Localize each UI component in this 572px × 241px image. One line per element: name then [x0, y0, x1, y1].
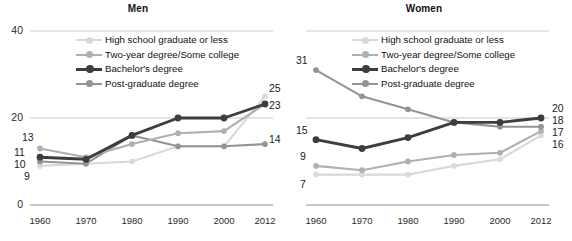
legend-men: High school graduate or less Two-year de… [76, 33, 239, 91]
legend-label-post-graduate: Post-graduate degree [105, 79, 199, 89]
series-two-year-men [37, 101, 268, 160]
ytick-men-40: 40 [1, 24, 23, 36]
xtick-men-1970: 1970 [69, 215, 103, 226]
endlabel-men-23: 23 [269, 99, 281, 111]
xtick-women-1960: 1960 [299, 215, 333, 226]
legend-swatch-bachelors-icon [352, 64, 378, 74]
startlabel-women-31: 31 [296, 54, 308, 66]
legend-label-two-year: Two-year degree/Some college [381, 50, 515, 60]
legend-swatch-bachelors-icon [76, 64, 102, 74]
legend-item-post-graduate: Post-graduate degree [76, 77, 239, 92]
endlabel-women-18: 18 [552, 114, 564, 126]
endlabel-men-14: 14 [269, 133, 281, 145]
legend-item-two-year: Two-year degree/Some college [76, 48, 239, 63]
xtick-women-1980: 1980 [391, 215, 425, 226]
series-post-graduate-men [37, 133, 268, 167]
xtick-men-2000: 2000 [207, 215, 241, 226]
legend-label-two-year: Two-year degree/Some college [105, 50, 239, 60]
legend-item-post-graduate: Post-graduate degree [352, 77, 515, 92]
xtick-women-2000: 2000 [483, 215, 517, 226]
legend-swatch-post-graduate-icon [352, 79, 378, 89]
legend-label-high-school: High school graduate or less [105, 35, 228, 45]
xtick-men-1960: 1960 [23, 215, 57, 226]
panel-women: Women [286, 0, 572, 241]
xtick-men-2012: 2012 [248, 215, 282, 226]
legend-item-bachelors: Bachelor's degree [352, 62, 515, 77]
xtick-men-1990: 1990 [161, 215, 195, 226]
series-bachelors-women [313, 115, 545, 152]
legend-women: High school graduate or less Two-year de… [352, 33, 515, 91]
startlabel-women-7: 7 [300, 178, 306, 190]
startlabel-women-15: 15 [296, 124, 308, 136]
legend-swatch-high-school-icon [76, 35, 102, 45]
xtick-men-1980: 1980 [115, 215, 149, 226]
series-high-school-women [313, 133, 544, 178]
legend-item-high-school: High school graduate or less [76, 33, 239, 48]
legend-swatch-two-year-icon [352, 50, 378, 60]
startlabel-men-13: 13 [22, 131, 34, 143]
legend-label-bachelors: Bachelor's degree [381, 64, 459, 74]
legend-item-two-year: Two-year degree/Some college [352, 48, 515, 63]
xtick-women-2012: 2012 [524, 215, 558, 226]
series-two-year-women [313, 128, 544, 173]
legend-item-high-school: High school graduate or less [352, 33, 515, 48]
endlabel-women-17: 17 [552, 126, 564, 138]
legend-label-post-graduate: Post-graduate degree [381, 79, 475, 89]
xtick-women-1990: 1990 [437, 215, 471, 226]
legend-swatch-post-graduate-icon [76, 79, 102, 89]
legend-item-bachelors: Bachelor's degree [76, 62, 239, 77]
two-panel-line-chart-figure: Men [0, 0, 572, 241]
endlabel-men-25: 25 [269, 82, 281, 94]
ytick-men-0: 0 [1, 198, 23, 210]
endlabel-women-16: 16 [552, 138, 564, 150]
legend-swatch-two-year-icon [76, 50, 102, 60]
legend-label-bachelors: Bachelor's degree [105, 64, 183, 74]
panel-men: Men [0, 0, 286, 241]
xtick-women-1970: 1970 [345, 215, 379, 226]
ytick-men-20: 20 [1, 111, 23, 123]
legend-swatch-high-school-icon [352, 35, 378, 45]
startlabel-women-9: 9 [300, 150, 306, 162]
startlabel-men-9: 9 [24, 170, 30, 182]
legend-label-high-school: High school graduate or less [381, 35, 504, 45]
startlabel-men-10: 10 [14, 158, 26, 170]
endlabel-women-20: 20 [552, 102, 564, 114]
startlabel-men-11: 11 [14, 146, 25, 158]
